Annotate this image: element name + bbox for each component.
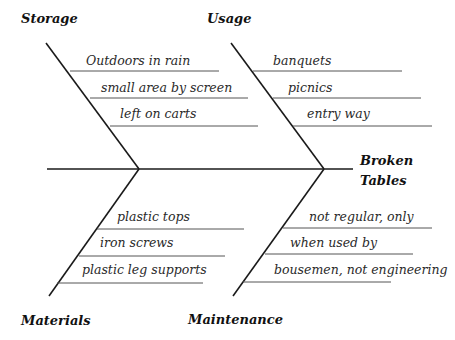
cause-label: plastic leg supports xyxy=(82,264,207,277)
category-maintenance: Maintenance xyxy=(188,313,283,326)
cause-label: bousemen, not engineering xyxy=(274,264,448,277)
cause-label: banquets xyxy=(273,55,331,68)
cause-label: not regular, only xyxy=(309,211,414,224)
cause-label: entry way xyxy=(307,108,370,121)
effect-line-1: Broken xyxy=(360,151,413,171)
cause-label: small area by screen xyxy=(101,82,232,95)
category-usage: Usage xyxy=(207,12,251,25)
cause-label: plastic tops xyxy=(117,211,190,224)
category-materials: Materials xyxy=(21,314,91,327)
effect-line-2: Tables xyxy=(360,171,413,191)
cause-label: left on carts xyxy=(120,108,196,121)
cause-label: iron screws xyxy=(100,237,173,250)
category-storage: Storage xyxy=(21,12,78,25)
cause-label: when used by xyxy=(290,237,377,250)
effect-label: Broken Tables xyxy=(360,151,413,191)
cause-label: Outdoors in rain xyxy=(86,55,190,68)
cause-label: picnics xyxy=(288,82,332,95)
